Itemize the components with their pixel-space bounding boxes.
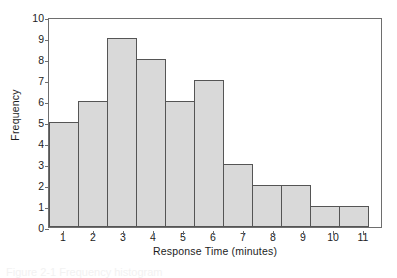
x-axis-tick-mark xyxy=(63,231,64,235)
y-axis-tick-mark xyxy=(45,19,49,20)
bar-series xyxy=(49,19,379,227)
y-axis-tick-label: 6 xyxy=(38,96,44,108)
y-axis-tick-mark xyxy=(45,145,49,146)
x-axis-tick-mark xyxy=(333,231,334,235)
x-axis-tick-labels: 1234567891011 xyxy=(48,231,378,245)
y-axis-tick-mark xyxy=(45,40,49,41)
y-axis-tick-label: 5 xyxy=(38,117,44,129)
y-axis-tick-mark xyxy=(45,124,49,125)
x-axis-tick-mark xyxy=(153,231,154,235)
x-axis-tick-mark xyxy=(273,231,274,235)
y-axis-tick-mark xyxy=(45,103,49,104)
histogram-bar xyxy=(252,185,282,227)
y-axis-tick-label: 2 xyxy=(38,180,44,192)
y-axis-tick-label: 4 xyxy=(38,138,44,150)
y-axis-tick-label: 10 xyxy=(32,12,44,24)
y-axis-tick-mark xyxy=(45,166,49,167)
y-axis-tick-label: 9 xyxy=(38,33,44,45)
histogram-bar xyxy=(107,38,137,227)
histogram-bar xyxy=(165,101,195,227)
y-axis-tick-label: 3 xyxy=(38,159,44,171)
y-axis-tick-mark xyxy=(45,229,49,230)
y-axis-tick-mark xyxy=(45,208,49,209)
y-axis-tick-labels: 012345678910 xyxy=(26,18,44,228)
histogram-bar xyxy=(194,80,224,227)
histogram-bar xyxy=(223,164,253,227)
y-axis-title: Frequency xyxy=(5,0,25,230)
x-axis-title-text: Response Time (minutes) xyxy=(153,245,277,257)
x-axis-tick-mark xyxy=(243,231,244,235)
x-axis-title: Response Time (minutes) xyxy=(48,245,382,257)
histogram-bar xyxy=(49,122,79,227)
y-axis-tick-label: 7 xyxy=(38,75,44,87)
histogram-bar xyxy=(136,59,166,227)
y-axis-tick-mark xyxy=(45,82,49,83)
histogram-bar xyxy=(78,101,108,227)
x-axis-tick-mark xyxy=(363,231,364,235)
x-axis-tick-mark xyxy=(303,231,304,235)
histogram-figure: Frequency 012345678910 1234567891011 Res… xyxy=(0,0,397,278)
x-axis-tick-mark xyxy=(93,231,94,235)
x-axis-tick-mark xyxy=(123,231,124,235)
plot-inner xyxy=(49,19,381,227)
histogram-bar xyxy=(339,206,369,227)
y-axis-tick-mark xyxy=(45,187,49,188)
plot-area xyxy=(48,18,382,228)
x-axis-tick-mark xyxy=(183,231,184,235)
y-axis-tick-label: 1 xyxy=(38,201,44,213)
histogram-bar xyxy=(310,206,340,227)
y-axis-tick-mark xyxy=(45,61,49,62)
figure-caption-clipped: Figure 2-1 Frequency histogram xyxy=(6,266,246,278)
y-axis-tick-label: 8 xyxy=(38,54,44,66)
histogram-bar xyxy=(281,185,311,227)
x-axis-tick-mark xyxy=(213,231,214,235)
y-axis-title-text: Frequency xyxy=(9,89,21,140)
y-axis-tick-label: 0 xyxy=(38,222,44,234)
